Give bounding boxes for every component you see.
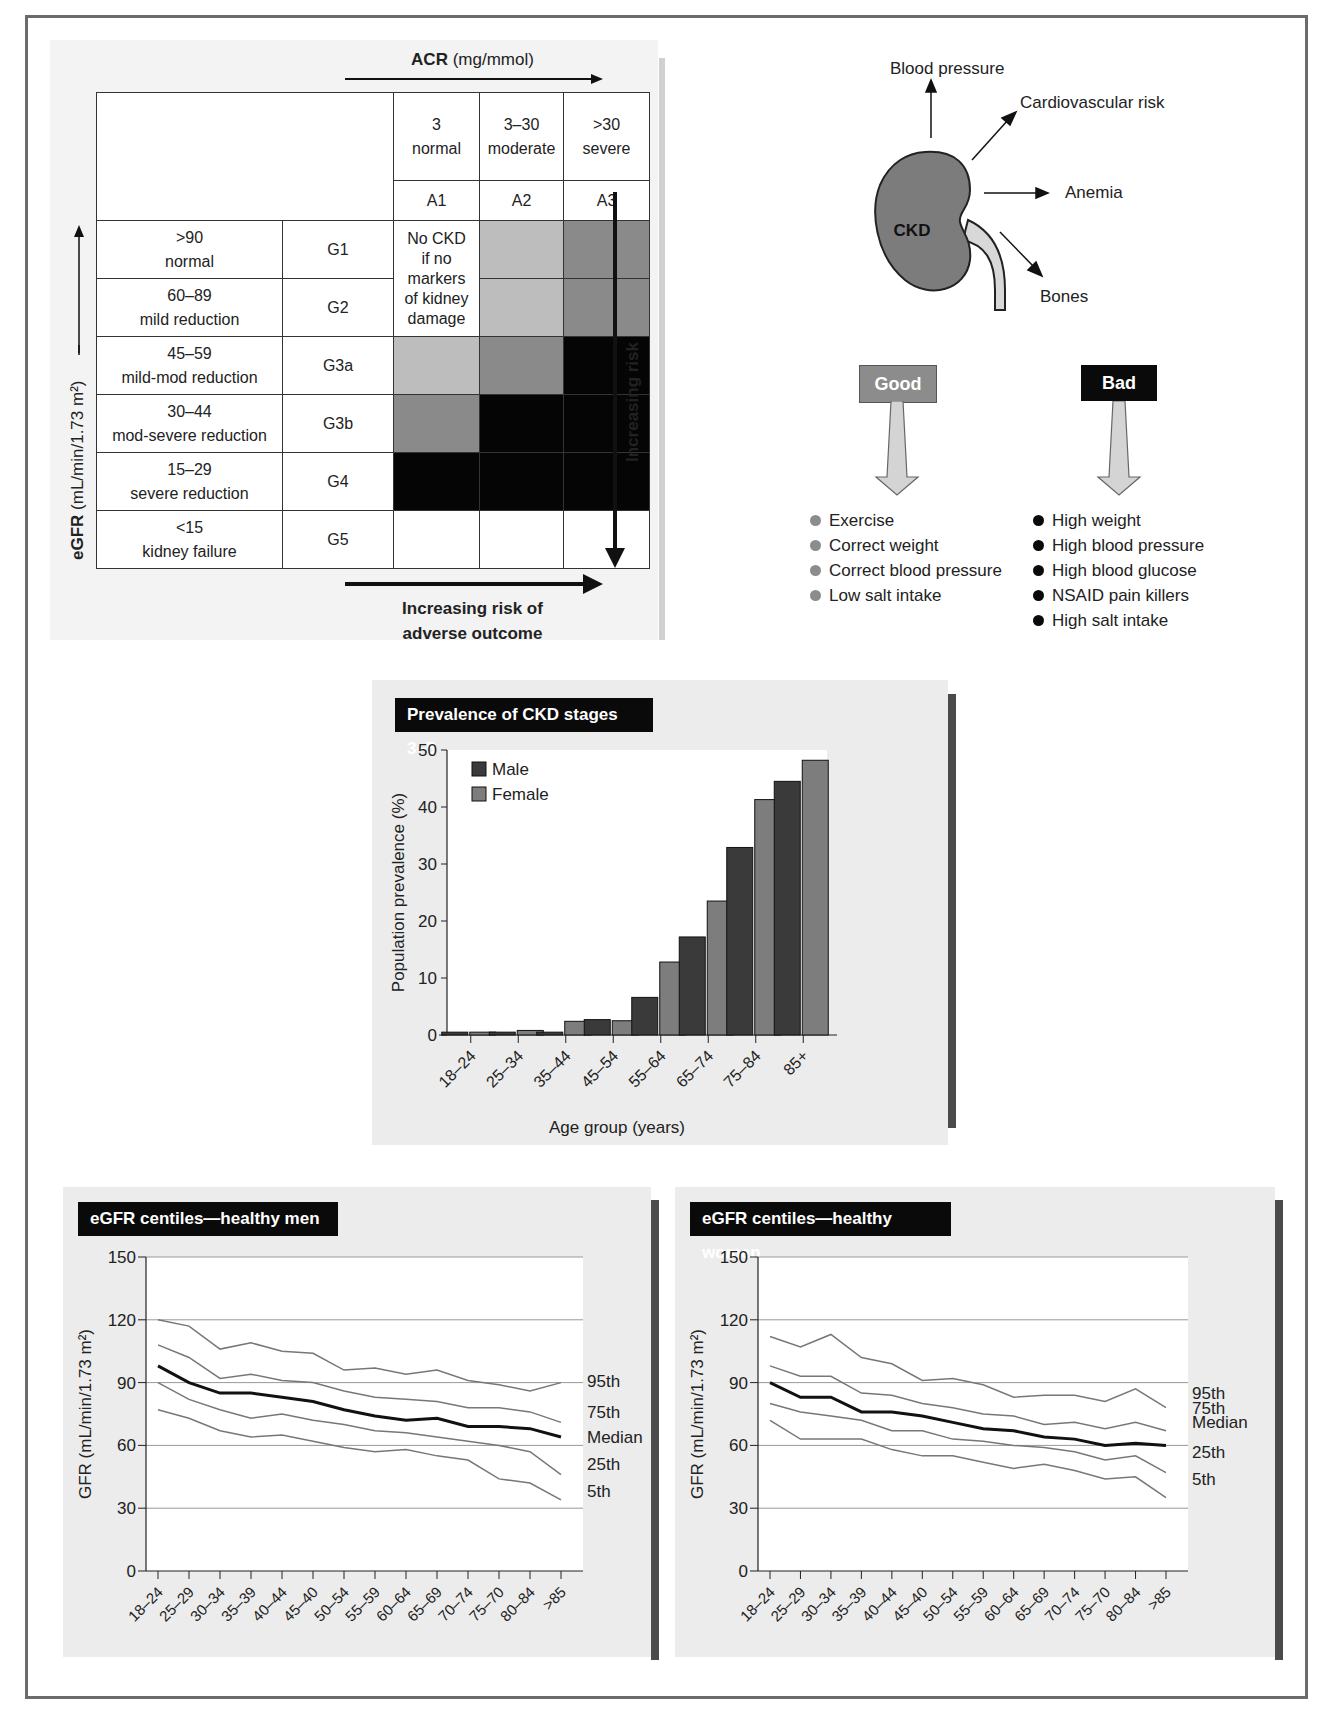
svg-text:25–29: 25–29	[156, 1583, 198, 1625]
svg-text:55–64: 55–64	[625, 1047, 669, 1091]
kidney-diagram: CKD Blood pressure Cardiovascular risk A…	[820, 50, 1240, 320]
risk-cell-g3b-a1	[394, 395, 480, 453]
gfr-row-g4-label: 15–29severe reduction	[97, 453, 283, 511]
list-item: Exercise	[810, 508, 1002, 533]
gfr-row-g5-code: G5	[283, 511, 394, 569]
svg-text:90: 90	[729, 1374, 748, 1393]
svg-text:40–44: 40–44	[249, 1583, 291, 1625]
svg-text:25–34: 25–34	[483, 1047, 527, 1091]
risk-cell-g5-a2	[480, 511, 564, 569]
bullet-icon	[810, 540, 821, 551]
list-item: High blood glucose	[1033, 558, 1204, 583]
egfr-axis-label: eGFR (mL/min/1.73 m²)	[68, 381, 88, 560]
svg-text:Age group (years): Age group (years)	[905, 1654, 1041, 1657]
gfr-row-g3a-code: G3a	[283, 337, 394, 395]
list-item: Correct blood pressure	[810, 558, 1002, 583]
svg-text:0: 0	[127, 1562, 136, 1581]
effect-bones: Bones	[1040, 287, 1088, 306]
list-item: NSAID pain killers	[1033, 583, 1204, 608]
risk-cell-g2-a2	[480, 279, 564, 337]
svg-text:25th: 25th	[587, 1455, 620, 1474]
svg-text:45–40: 45–40	[280, 1583, 322, 1625]
svg-text:95th: 95th	[587, 1372, 620, 1391]
svg-text:80–84: 80–84	[1102, 1583, 1144, 1625]
svg-text:85+: 85+	[780, 1047, 811, 1078]
risk-down-arrow-icon	[605, 192, 625, 572]
svg-text:30: 30	[117, 1499, 136, 1518]
effect-anemia: Anemia	[1065, 183, 1123, 202]
svg-text:0: 0	[739, 1562, 748, 1581]
acr-code-a2: A2	[480, 181, 564, 221]
effect-blood-pressure: Blood pressure	[890, 59, 1004, 78]
gfr-row-g3b-code: G3b	[283, 395, 394, 453]
prevalence-panel-bar	[948, 694, 956, 1128]
gfr-row-g1-code: G1	[283, 221, 394, 279]
svg-text:5th: 5th	[1192, 1470, 1216, 1489]
svg-text:Median: Median	[1192, 1413, 1248, 1432]
svg-text:120: 120	[108, 1311, 136, 1330]
men-centile-line-chart: 030609012015018–2425–2930–3435–3940–4445…	[63, 1237, 651, 1657]
good-down-arrow-icon	[874, 401, 920, 497]
svg-text:50–54: 50–54	[311, 1583, 353, 1625]
vertical-risk-label: Increasing risk	[623, 342, 643, 462]
egfr-axis-line	[72, 345, 86, 355]
prevalence-bar-chart: 0102030405018–2425–3435–4445–5455–6465–7…	[372, 730, 948, 1145]
gfr-row-g3a-label: 45–59mild-mod reduction	[97, 337, 283, 395]
gfr-row-g5-label: <15kidney failure	[97, 511, 283, 569]
svg-text:120: 120	[720, 1311, 748, 1330]
svg-text:60: 60	[729, 1436, 748, 1455]
svg-text:30: 30	[418, 855, 437, 874]
acr-arrow-icon	[345, 72, 605, 86]
svg-text:18–24: 18–24	[125, 1583, 167, 1625]
good-factors-list: Exercise Correct weight Correct blood pr…	[810, 508, 1002, 608]
risk-cell-g5-a1	[394, 511, 480, 569]
svg-text:25th: 25th	[1192, 1443, 1225, 1462]
bullet-icon	[1033, 615, 1044, 626]
svg-text:150: 150	[720, 1248, 748, 1267]
good-factors-badge: Good	[859, 365, 937, 403]
acr-col-a2-header: 3–30moderate	[480, 93, 564, 181]
bad-down-arrow-icon	[1096, 401, 1142, 497]
svg-text:75–84: 75–84	[720, 1047, 764, 1091]
svg-text:45–54: 45–54	[578, 1047, 622, 1091]
risk-cell-g3b-a2	[480, 395, 564, 453]
svg-text:75th: 75th	[587, 1403, 620, 1422]
risk-cell-g3a-a1	[394, 337, 480, 395]
svg-text:20: 20	[418, 912, 437, 931]
svg-text:Age group (years): Age group (years)	[549, 1118, 685, 1137]
svg-text:10: 10	[418, 969, 437, 988]
women-centile-title: eGFR centiles—healthy women	[690, 1202, 951, 1236]
list-item: High blood pressure	[1033, 533, 1204, 558]
bullet-icon	[1033, 565, 1044, 576]
svg-text:55–59: 55–59	[342, 1583, 384, 1625]
svg-text:18–24: 18–24	[435, 1047, 479, 1091]
gfr-row-g4-code: G4	[283, 453, 394, 511]
svg-text:GFR (mL/min/1.73 m²): GFR (mL/min/1.73 m²)	[688, 1329, 707, 1499]
women-panel-bar	[1275, 1200, 1283, 1660]
list-item: High salt intake	[1033, 608, 1204, 633]
bad-factors-list: High weight High blood pressure High blo…	[1033, 508, 1204, 633]
gfr-row-g1-label: >90normal	[97, 221, 283, 279]
acr-col-a1-header: 3normal	[394, 93, 480, 181]
svg-text:Male: Male	[492, 760, 529, 779]
svg-text:>85: >85	[539, 1583, 569, 1613]
list-item: High weight	[1033, 508, 1204, 533]
men-centile-title: eGFR centiles—healthy men	[78, 1202, 338, 1236]
bullet-icon	[1033, 590, 1044, 601]
bullet-icon	[810, 515, 821, 526]
svg-text:80–84: 80–84	[497, 1583, 539, 1625]
svg-text:30: 30	[729, 1499, 748, 1518]
acr-title: ACR (mg/mmol)	[345, 50, 600, 70]
effect-cardiovascular-risk: Cardiovascular risk	[1020, 93, 1165, 112]
list-item: Low salt intake	[810, 583, 1002, 608]
svg-text:5th: 5th	[587, 1482, 611, 1501]
acr-col-a3-header: >30severe	[564, 93, 650, 181]
svg-text:GFR (mL/min/1.73 m²): GFR (mL/min/1.73 m²)	[76, 1329, 95, 1499]
svg-text:60–64: 60–64	[373, 1583, 415, 1625]
svg-text:65–69: 65–69	[404, 1583, 446, 1625]
svg-text:30–34: 30–34	[187, 1583, 229, 1625]
no-ckd-note-cell: No CKDif nomarkersof kidneydamage	[394, 221, 480, 337]
bullet-icon	[810, 590, 821, 601]
risk-cell-g4-a2	[480, 453, 564, 511]
svg-text:Population prevalence (%): Population prevalence (%)	[389, 793, 408, 992]
